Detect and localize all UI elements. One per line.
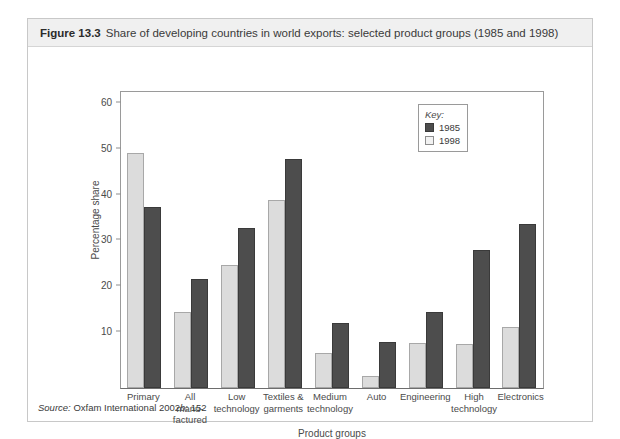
bar-1985 <box>238 228 255 388</box>
x-axis-title: Product groups <box>120 428 544 439</box>
legend-entries: 19851998 <box>425 122 460 146</box>
source-page: : 152 <box>185 402 206 413</box>
y-axis-tick: 10 <box>101 326 121 337</box>
x-axis-tick-label: Hightechnology <box>451 391 498 426</box>
legend-swatch <box>425 136 434 145</box>
figure-caption-bar: Figure 13.3 Share of developing countrie… <box>28 19 592 47</box>
y-axis-tick-label: 40 <box>101 188 112 199</box>
bar-1998 <box>268 200 285 388</box>
y-axis-title: Percentage share <box>90 180 101 259</box>
x-axis-tick-label: Textiles &garments <box>260 391 307 426</box>
bar-1998 <box>315 353 332 388</box>
bar-1998 <box>221 265 238 388</box>
x-axis-tick-label: Lowtechnology <box>213 391 260 426</box>
bar-1998 <box>362 376 379 388</box>
legend-label: 1985 <box>439 122 460 133</box>
x-axis-tick-label: Electronics <box>497 391 544 426</box>
bar-1985 <box>332 323 349 388</box>
bar-1998 <box>127 153 144 388</box>
bar-1998 <box>502 327 519 388</box>
bar-group <box>174 92 208 388</box>
y-axis-tick: 50 <box>101 142 121 153</box>
x-axis-tick-label: Engineering <box>400 391 451 426</box>
legend-entry: 1985 <box>425 122 460 133</box>
legend-entry: 1998 <box>425 135 460 146</box>
bar-1985 <box>379 342 396 388</box>
chart-legend: Key: 19851998 <box>418 104 468 152</box>
plot-inner: 102030405060 <box>121 92 543 388</box>
legend-label: 1998 <box>439 135 460 146</box>
bar-1985 <box>519 224 536 388</box>
plot-frame: 102030405060 <box>120 91 544 389</box>
source-text: Oxfam International 2002 <box>73 402 180 413</box>
bar-1998 <box>409 343 426 388</box>
source-label: Source: <box>38 402 71 413</box>
bar-1985 <box>426 312 443 388</box>
bar-group <box>502 92 536 388</box>
bar-group <box>268 92 302 388</box>
y-axis-tick: 60 <box>101 96 121 107</box>
x-axis-tick-label: Auto <box>353 391 400 426</box>
figure-card: Figure 13.3 Share of developing countrie… <box>27 18 593 422</box>
y-axis-tick-label: 60 <box>101 96 112 107</box>
bar-group <box>221 92 255 388</box>
y-axis-tick-label: 50 <box>101 142 112 153</box>
y-axis-tick-label: 30 <box>101 234 112 245</box>
bar-1985 <box>144 207 161 388</box>
y-axis-tick: 40 <box>101 188 121 199</box>
bar-group <box>362 92 396 388</box>
source-note: Source: Oxfam International 2002b: 152 <box>38 402 207 413</box>
y-axis-tick-label: 10 <box>101 326 112 337</box>
y-axis-tick-label: 20 <box>101 280 112 291</box>
figure-title: Share of developing countries in world e… <box>106 27 559 39</box>
chart-region: Percentage share 102030405060 PrimaryAll… <box>28 47 592 392</box>
y-axis-tick: 20 <box>101 280 121 291</box>
legend-swatch <box>425 123 434 132</box>
bar-group <box>315 92 349 388</box>
bar-1998 <box>174 312 191 388</box>
figure-number: Figure 13.3 <box>40 27 101 39</box>
legend-title: Key: <box>425 109 460 120</box>
bar-1998 <box>456 344 473 388</box>
bars-layer <box>121 92 543 388</box>
bar-1985 <box>191 279 208 388</box>
x-axis-tick-label: Mediumtechnology <box>307 391 354 426</box>
y-axis-tick: 30 <box>101 234 121 245</box>
bar-1985 <box>473 250 490 388</box>
bar-1985 <box>285 159 302 388</box>
bar-group <box>127 92 161 388</box>
